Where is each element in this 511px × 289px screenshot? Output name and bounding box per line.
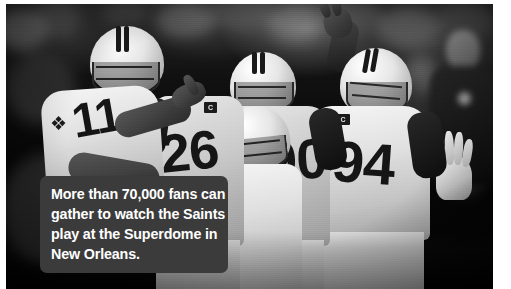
- photo-caption: More than 70,000 fans can gather to watc…: [40, 176, 228, 273]
- caption-line-2: gather to watch the Saints: [51, 204, 217, 224]
- caption-line-3: play at the Superdome in: [51, 224, 217, 244]
- fleur-de-lis-logo: ❖: [50, 114, 67, 133]
- page-root: C 94 C 90 ❖: [0, 0, 511, 289]
- caption-line-1: More than 70,000 fans can: [51, 184, 217, 204]
- caption-line-4: New Orleans.: [51, 244, 217, 264]
